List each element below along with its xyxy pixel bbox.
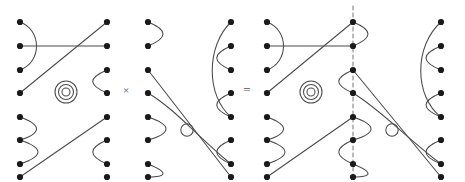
node3-mid-2 bbox=[350, 43, 356, 49]
node-left-7 bbox=[17, 161, 23, 167]
node2-right-5 bbox=[228, 114, 234, 120]
node-right-4 bbox=[104, 90, 110, 96]
node3-mid-3 bbox=[350, 67, 356, 73]
node3-left-8 bbox=[264, 174, 270, 180]
node3-right-6 bbox=[438, 137, 444, 143]
node-left-8 bbox=[17, 174, 23, 180]
node-right-8 bbox=[104, 174, 110, 180]
node3-left-1 bbox=[264, 19, 270, 25]
node3-right-8 bbox=[438, 174, 444, 180]
node3-mid-7 bbox=[350, 161, 356, 167]
node2-right-7 bbox=[228, 161, 234, 167]
node3-right-5 bbox=[438, 114, 444, 120]
node2-left-2 bbox=[145, 43, 151, 49]
node3-mid-6 bbox=[350, 137, 356, 143]
node3-right-2 bbox=[438, 43, 444, 49]
node3-right-1 bbox=[438, 19, 444, 25]
node-left-4 bbox=[17, 90, 23, 96]
node2-left-7 bbox=[145, 161, 151, 167]
node3-mid-4 bbox=[350, 90, 356, 96]
multiplication-operator: × bbox=[118, 85, 134, 96]
node2-left-8 bbox=[145, 174, 151, 180]
node3-left-6 bbox=[264, 137, 270, 143]
node3-mid-5 bbox=[350, 114, 356, 120]
node2-right-4 bbox=[228, 90, 234, 96]
node-right-1 bbox=[104, 19, 110, 25]
planar-diagram-equation bbox=[0, 0, 465, 182]
node3-mid-8 bbox=[350, 174, 356, 180]
figure-canvas: × = bbox=[0, 0, 465, 182]
node2-left-6 bbox=[145, 137, 151, 143]
node2-right-3 bbox=[228, 67, 234, 73]
node2-right-2 bbox=[228, 43, 234, 49]
node-right-3 bbox=[104, 67, 110, 73]
node3-left-3 bbox=[264, 67, 270, 73]
node3-left-4 bbox=[264, 90, 270, 96]
node3-left-2 bbox=[264, 43, 270, 49]
node2-right-1 bbox=[228, 19, 234, 25]
node3-left-7 bbox=[264, 161, 270, 167]
node2-right-6 bbox=[228, 137, 234, 143]
node2-right-8 bbox=[228, 174, 234, 180]
node-left-5 bbox=[17, 114, 23, 120]
node2-left-4 bbox=[145, 90, 151, 96]
node-right-7 bbox=[104, 161, 110, 167]
node3-left-5 bbox=[264, 114, 270, 120]
node-right-5 bbox=[104, 114, 110, 120]
node-right-6 bbox=[104, 137, 110, 143]
node-right-2 bbox=[104, 43, 110, 49]
node3-right-4 bbox=[438, 90, 444, 96]
node3-mid-1 bbox=[350, 19, 356, 25]
node-left-3 bbox=[17, 67, 23, 73]
node-left-1 bbox=[17, 19, 23, 25]
node2-left-3 bbox=[145, 67, 151, 73]
node-left-2 bbox=[17, 43, 23, 49]
node2-left-5 bbox=[145, 114, 151, 120]
node2-left-1 bbox=[145, 19, 151, 25]
equals-operator: = bbox=[239, 83, 255, 96]
node3-right-7 bbox=[438, 161, 444, 167]
node3-right-3 bbox=[438, 67, 444, 73]
node-left-6 bbox=[17, 137, 23, 143]
